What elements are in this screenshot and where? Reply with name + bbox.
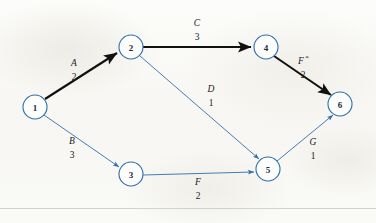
node-2[interactable]: 2 [119,35,143,59]
node-1-label: 1 [33,103,38,113]
edge-label-C-activity: C [194,18,201,28]
edge-label-G-duration: 1 [311,151,316,161]
edge-label-F-star-marker: * [305,54,309,62]
edge-label-F-star-activity: F [297,56,304,66]
edge-label-A-duration: 2 [72,72,77,82]
edge-label-F-star: F * 2 [297,54,309,80]
edge-label-F-activity: F [194,177,201,187]
edge-label-B-activity: B [69,136,75,146]
edge-5-to-6 [277,115,333,161]
node-5[interactable]: 5 [256,157,280,181]
activity-network-diagram: 1 2 3 4 5 6 [0,0,376,223]
node-6-label: 6 [338,100,343,110]
node-1[interactable]: 1 [23,95,47,119]
edge-label-B-duration: 3 [70,150,75,160]
edges-normal [44,56,333,175]
node-3[interactable]: 3 [119,162,143,186]
node-6[interactable]: 6 [328,92,352,116]
node-2-label: 2 [129,43,134,53]
edge-label-F: F 2 [194,177,201,201]
edge-label-A-activity: A [70,58,77,68]
node-4-label: 4 [264,43,269,53]
edge-label-D: D 1 [207,84,215,108]
node-5-label: 5 [266,165,271,175]
edge-1-to-3 [44,115,119,167]
edge-label-D-duration: 1 [209,98,214,108]
edges-critical [45,47,331,99]
edge-label-F-duration: 2 [196,191,201,201]
edge-label-G-activity: G [310,137,317,147]
diagram-page: 1 2 3 4 5 6 [0,0,376,223]
edge-label-C: C 3 [194,18,201,42]
edge-2-to-5 [140,56,259,159]
edge-label-B: B 3 [69,136,75,160]
edge-1-to-2 [45,53,117,99]
node-4[interactable]: 4 [254,35,278,59]
edge-label-A: A 2 [70,58,77,82]
edge-label-D-activity: D [207,84,215,94]
edge-label-G: G 1 [310,137,317,161]
node-3-label: 3 [129,170,134,180]
edge-label-C-duration: 3 [195,32,200,42]
edge-label-F-star-duration: 2 [301,70,306,80]
edge-3-to-5 [143,172,254,175]
